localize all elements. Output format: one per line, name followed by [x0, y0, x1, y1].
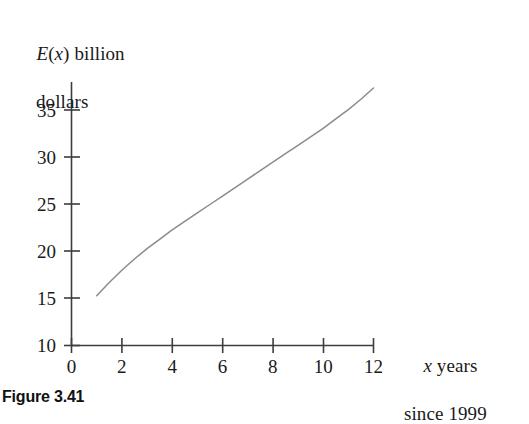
y-tick-label: 35	[16, 101, 56, 120]
figure-caption: Figure 3.41	[2, 387, 84, 407]
y-tick-label: 30	[16, 148, 56, 167]
x-tick-label: 2	[107, 357, 137, 376]
data-curve-E-of-x	[97, 88, 374, 296]
x-axis-title-var-x: x	[423, 355, 432, 376]
y-tick-label: 20	[16, 242, 56, 261]
y-axis-title: E(x) billion dollars	[17, 18, 125, 162]
x-tick-label: 10	[308, 357, 338, 376]
x-tick-label: 12	[359, 357, 389, 376]
y-tick-label: 10	[16, 336, 56, 355]
x-tick-label: 8	[258, 357, 288, 376]
y-axis-title-line1: E(x) billion	[36, 43, 124, 64]
y-tick-label: 15	[16, 289, 56, 308]
y-axis-title-line1-rest: billion	[70, 43, 125, 64]
x-axis-title-line2: since 1999	[404, 402, 487, 424]
x-tick-label: 6	[208, 357, 238, 376]
y-tick-label: 25	[16, 195, 56, 214]
x-tick-label: 4	[157, 357, 187, 376]
x-tick-label: 0	[57, 357, 87, 376]
x-axis-title-line1: x years	[423, 355, 477, 376]
x-axis-title: x years since 1999	[404, 330, 487, 424]
y-axis-title-paren-var-x: x	[55, 43, 64, 64]
y-axis-title-var-E: E	[36, 43, 48, 64]
x-axis-title-line1-rest: years	[432, 355, 477, 376]
